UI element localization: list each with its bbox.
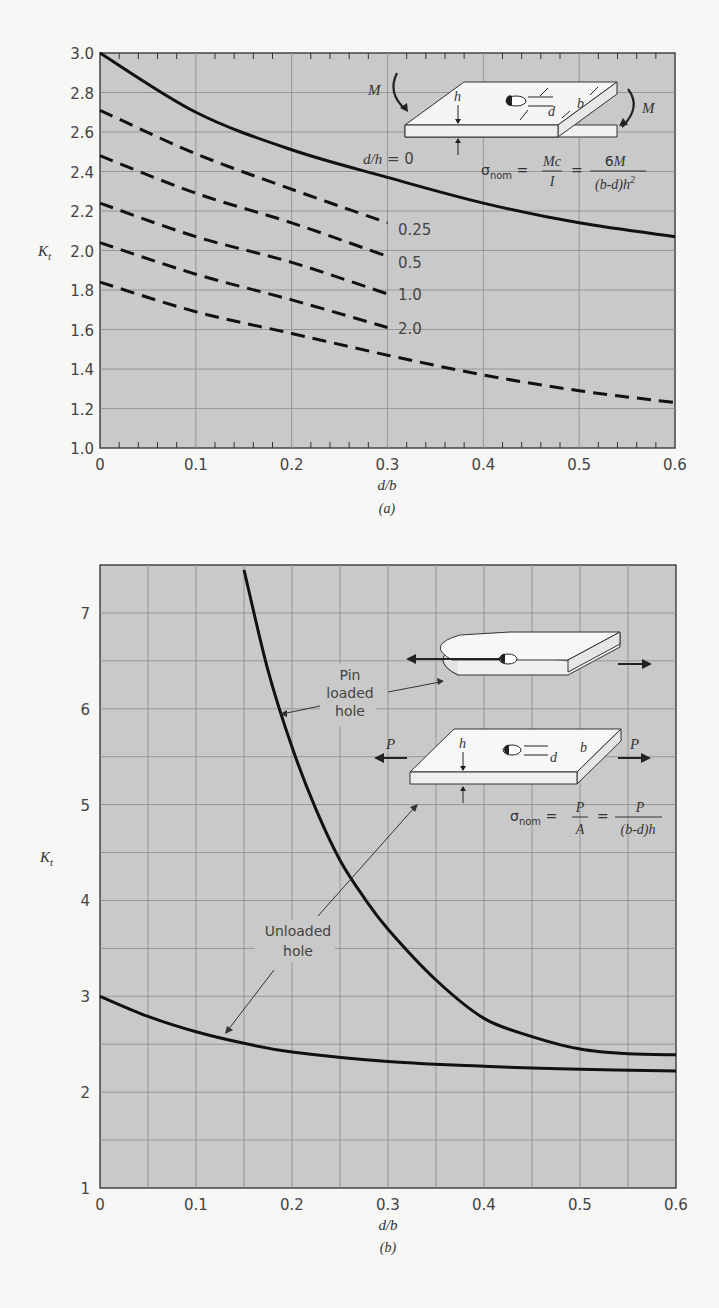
chart-a-bending-plate: 1.01.21.41.61.82.02.22.42.62.83.0 00.10.… [37,45,687,517]
chart-b-axial-plate: 1234567 00.10.20.30.40.50.6 Kt d/b (b) P… [39,565,688,1256]
y-tick-label: 5 [80,797,90,815]
y-tick-label: 1.0 [70,440,94,458]
svg-text:P: P [635,800,645,815]
y-tick-label: 2.6 [70,124,94,142]
svg-text:(b-d)h: (b-d)h [621,822,656,838]
force-label-left: P [385,736,395,752]
y-tick-label: 1.2 [70,401,94,419]
svg-text:Unloaded: Unloaded [265,923,332,939]
y-tick-label: 4 [80,892,90,910]
y-tick-label: 1.8 [70,282,94,300]
chart-a-y-axis-label: Kt [37,243,52,262]
dim-d-label: d [548,104,556,119]
svg-text:=: = [597,808,609,824]
x-tick-label: 0.1 [184,456,208,474]
chart-b-x-axis-label: d/b [378,1217,398,1233]
x-tick-label: 0.6 [664,1196,688,1214]
dim-b-label-b: b [580,740,587,755]
y-tick-label: 1.6 [70,322,94,340]
x-tick-label: 0.1 [184,1196,208,1214]
x-tick-label: 0.5 [567,456,591,474]
y-tick-label: 1.4 [70,361,94,379]
y-tick-label: 2.8 [70,85,94,103]
x-tick-label: 0.2 [280,1196,304,1214]
svg-text:loaded: loaded [326,685,373,701]
moment-label-right: M [641,100,656,116]
y-tick-label: 3.0 [70,45,94,63]
y-tick-label: 2.0 [70,243,94,261]
force-label-right: P [629,736,639,752]
svg-text:(b-d)h2: (b-d)h2 [595,174,635,193]
curve-label-0.25: 0.25 [398,221,431,239]
svg-text:hole: hole [283,943,313,959]
x-tick-label: 0 [95,1196,105,1214]
curve-label-1.0: 1.0 [398,286,422,304]
x-tick-label: 0.2 [280,456,304,474]
chart-b-y-axis-label: Kt [39,849,54,868]
chart-a-caption: (a) [379,501,396,517]
chart-b-x-tick-labels: 00.10.20.30.40.50.6 [95,1196,688,1214]
svg-text:Mc: Mc [542,154,562,169]
y-tick-label: 7 [80,605,90,623]
curve-label-d-h-0: d/h = 0 [363,150,414,168]
x-tick-label: 0.6 [663,456,687,474]
svg-text:hole: hole [335,703,365,719]
y-tick-label: 2 [80,1084,90,1102]
svg-text:6M: 6M [605,153,627,169]
dim-b-label: b [577,96,584,111]
curve-label-0.5: 0.5 [398,254,422,272]
x-tick-label: 0.4 [472,1196,496,1214]
stress-concentration-figure: 1.01.21.41.61.82.02.22.42.62.83.0 00.10.… [0,0,719,1308]
chart-b-y-tick-labels: 1234567 [80,605,90,1198]
x-tick-label: 0.5 [568,1196,592,1214]
y-tick-label: 2.4 [70,164,94,182]
moment-label-left: M [367,82,382,98]
chart-a-x-axis-label: d/b [377,477,397,493]
y-tick-label: 1 [80,1180,90,1198]
svg-text:=: = [571,162,583,178]
y-tick-label: 2.2 [70,203,94,221]
dim-h-label-b: h [459,736,466,751]
dim-h-label: h [454,89,461,104]
curve-label-2.0: 2.0 [398,320,422,338]
y-tick-label: 3 [80,988,90,1006]
svg-text:P: P [575,800,585,815]
x-tick-label: 0.3 [376,456,400,474]
dim-d-label-b: d [550,750,558,765]
chart-a-y-tick-labels: 1.01.21.41.61.82.02.22.42.62.83.0 [70,45,94,458]
svg-text:Pin: Pin [340,667,361,683]
x-tick-label: 0.3 [376,1196,400,1214]
svg-text:A: A [575,822,585,837]
chart-b-caption: (b) [380,1240,397,1256]
chart-a-x-tick-labels: 00.10.20.30.40.50.6 [95,456,687,474]
y-tick-label: 6 [80,701,90,719]
x-tick-label: 0 [95,456,105,474]
x-tick-label: 0.4 [471,456,495,474]
